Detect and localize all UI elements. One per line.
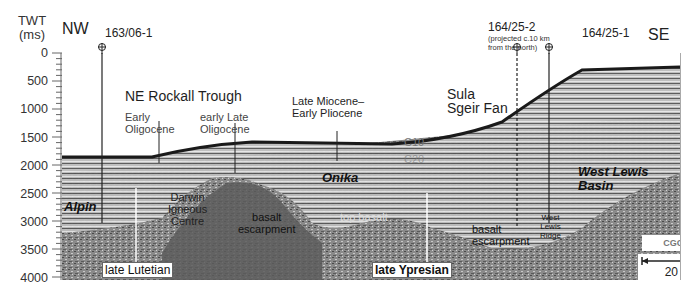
well-label-164-25-1: 164/25-1 [582,26,629,40]
label-basalt-escarpment-1: basalt escarpment [238,211,295,235]
direction-nw: NW [62,20,89,38]
label-west-lewis-ridge: West Lewis Ridge [540,213,561,240]
tick-1500: 1500 [2,131,48,145]
seismic-section: NE Rockall Trough Early Oligocene early … [62,53,681,280]
tick-3000: 3000 [2,215,48,229]
well-heads [62,40,680,54]
label-c20: C20 [404,153,424,165]
tick-500: 500 [2,74,48,88]
well-note-164-25-2: (projected c.10 km from the north) [488,34,550,52]
label-early-late-oligocene: early Late Oligocene [200,111,250,135]
cggveritas-logo: CGGVERITAS [642,235,681,251]
tick-2000: 2000 [2,159,48,173]
label-c10: C10 [404,136,424,148]
label-late-miocene-early-pliocene: Late Miocene– Early Pliocene [292,95,364,119]
tick-3500: 3500 [2,243,48,257]
label-late-lutetian: late Lutetian [102,262,173,278]
tick-2500: 2500 [2,187,48,201]
label-top-basalt: top basalt [340,211,388,223]
label-ne-rockall-trough: NE Rockall Trough [125,89,242,103]
label-alpin: Alpin [64,200,97,214]
axis-title: TWT (ms) [12,14,52,42]
scale-bar: 20 km [638,254,681,280]
label-darwin-igneous-centre: Darwin Igneous Centre [168,191,207,227]
well-label-163-06-1: 163/06-1 [105,26,152,40]
label-sula-sgeir-fan: Sula Sgeir Fan [447,87,508,115]
tick-0: 0 [2,46,48,60]
axis-title-twt: TWT [12,14,52,28]
tick-1000: 1000 [2,102,48,116]
axis-title-units: (ms) [12,28,52,42]
label-early-oligocene: Early Oligocene [125,111,175,135]
tick-4000: 4000 [2,271,48,285]
label-west-lewis-basin: West Lewis Basin [578,165,649,193]
scale-bar-label: 20 km [638,265,681,279]
label-onika: Onika [322,171,358,185]
label-late-ypresian: late Ypresian [372,262,452,278]
label-basalt-escarpment-2: basalt escarpment [472,223,529,247]
well-label-164-25-2: 164/25-2 [488,20,535,34]
